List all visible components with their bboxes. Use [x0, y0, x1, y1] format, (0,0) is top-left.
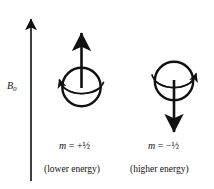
figure-canvas	[0, 0, 214, 189]
spin-state-alpha-group	[60, 33, 104, 106]
state-value-alpha: +½	[77, 140, 90, 151]
state-relation-alpha: =	[69, 140, 75, 151]
state-label-beta: m = −½	[148, 141, 179, 151]
spin-state-beta-group	[152, 62, 196, 132]
state-symbol-beta: m	[148, 140, 155, 151]
field-subscript: 0	[13, 85, 17, 93]
state-label-alpha: m = +½	[59, 141, 90, 151]
field-strength-label: B0	[7, 81, 17, 93]
energy-caption-alpha: (lower energy)	[44, 165, 100, 175]
state-symbol-alpha: m	[59, 140, 66, 151]
state-relation-beta: =	[158, 140, 164, 151]
energy-caption-beta: (higher energy)	[130, 165, 189, 175]
state-value-beta: −½	[166, 140, 179, 151]
spin-states-figure: B0 m = +½ m = −½ (lower energy) (higher …	[0, 0, 214, 189]
